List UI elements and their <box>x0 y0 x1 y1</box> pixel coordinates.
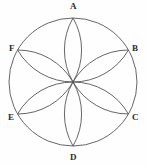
vertex-label-a: A <box>70 2 77 11</box>
rosette-drawing <box>0 0 147 166</box>
vertex-label-b: B <box>132 44 138 53</box>
vertex-label-d: D <box>70 153 77 162</box>
vertex-label-c: C <box>132 113 139 122</box>
petal-d <box>64 82 81 146</box>
petal-a <box>64 18 81 82</box>
vertex-label-f: F <box>9 44 15 53</box>
vertex-label-e: E <box>8 113 14 122</box>
geometry-figure: A B C D E F <box>0 0 147 166</box>
